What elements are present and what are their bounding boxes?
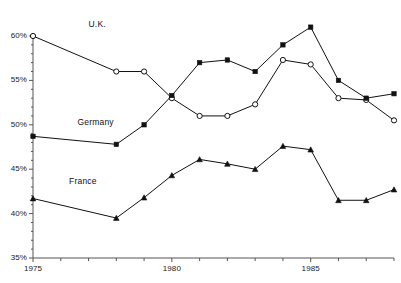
series-label-france: France	[69, 176, 97, 186]
series-marker-germany	[392, 92, 396, 96]
line-chart: 35%40%45%50%55%60%197519801985U.K.German…	[0, 0, 401, 283]
series-marker-u-k	[280, 57, 285, 62]
series-marker-france	[30, 196, 36, 201]
series-marker-u-k	[141, 69, 146, 74]
series-marker-u-k	[114, 69, 119, 74]
series-marker-u-k	[225, 113, 230, 118]
x-tick-label: 1980	[152, 264, 192, 273]
y-tick-label: 60%	[0, 31, 27, 40]
series-marker-france	[391, 187, 397, 192]
y-tick-label: 45%	[0, 164, 27, 173]
series-marker-france	[169, 173, 175, 178]
series-marker-u-k	[336, 96, 341, 101]
series-marker-u-k	[197, 113, 202, 118]
series-marker-germany	[114, 142, 118, 146]
series-marker-germany	[253, 69, 257, 73]
series-marker-germany	[142, 123, 146, 127]
series-marker-germany	[31, 134, 35, 138]
series-marker-germany	[197, 60, 201, 64]
y-tick-label: 35%	[0, 253, 27, 262]
series-marker-germany	[364, 96, 368, 100]
x-tick-label: 1985	[291, 264, 331, 273]
plot-area	[0, 0, 401, 283]
y-tick-label: 40%	[0, 209, 27, 218]
series-marker-germany	[281, 43, 285, 47]
series-marker-germany	[308, 25, 312, 29]
series-marker-u-k	[253, 102, 258, 107]
x-tick-label: 1975	[13, 264, 53, 273]
series-label-u-k: U.K.	[89, 19, 106, 29]
series-marker-germany	[336, 78, 340, 82]
y-tick-label: 55%	[0, 75, 27, 84]
series-marker-germany	[225, 58, 229, 62]
y-tick-label: 50%	[0, 120, 27, 129]
series-marker-germany	[170, 93, 174, 97]
series-marker-u-k	[30, 33, 35, 38]
series-marker-france	[197, 157, 203, 162]
series-label-germany: Germany	[77, 117, 113, 127]
series-marker-u-k	[308, 62, 313, 67]
series-marker-u-k	[391, 118, 396, 123]
